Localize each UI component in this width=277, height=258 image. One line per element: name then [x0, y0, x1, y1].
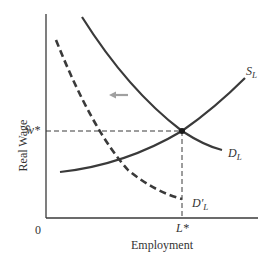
demand-curve	[82, 17, 222, 150]
origin-label: 0	[35, 223, 41, 238]
supply-curve-subscript: L	[252, 70, 257, 80]
shifted-demand-name: D′	[192, 196, 203, 210]
demand-curve-subscript: L	[237, 152, 242, 162]
supply-curve	[60, 78, 245, 172]
shifted-demand-label: D′L	[192, 196, 208, 211]
supply-curve-label: SL	[246, 64, 257, 79]
w-star-label: w*	[26, 123, 40, 138]
demand-curve-label: DL	[228, 146, 242, 161]
y-axis-label: Real Wage	[16, 111, 31, 181]
shift-arrow-icon	[109, 92, 116, 99]
equilibrium-point	[179, 128, 185, 134]
demand-curve-name: D	[228, 146, 237, 160]
labor-market-diagram	[0, 0, 277, 258]
shifted-demand-curve	[56, 40, 182, 199]
x-axis-label: Employment	[131, 238, 193, 253]
shifted-demand-subscript: L	[203, 202, 208, 212]
l-star-label: L*	[176, 221, 189, 236]
